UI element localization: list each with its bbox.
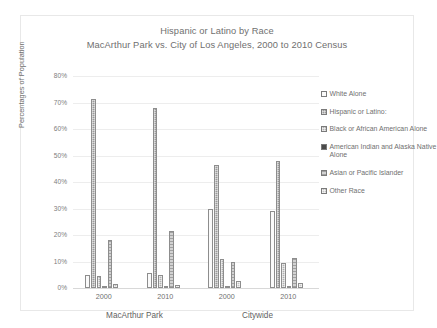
bar bbox=[292, 258, 297, 288]
legend-item-label: Black or African American Alone bbox=[330, 125, 428, 134]
legend-swatch-icon bbox=[321, 170, 327, 176]
chart-subtitle: MacArthur Park vs. City of Los Angeles, … bbox=[21, 39, 413, 53]
legend-item-label: American Indian and Alaska Native Alone bbox=[330, 143, 437, 160]
y-axis-tick-label: 10% bbox=[27, 258, 67, 265]
plot-area: 0%10%20%30%40%50%60%70%80% bbox=[73, 76, 319, 288]
bar bbox=[91, 99, 96, 288]
y-axis-label: Percentages of Population bbox=[17, 41, 26, 128]
x-axis-tick-label: 2010 bbox=[257, 292, 319, 301]
bar bbox=[108, 240, 113, 288]
legend-item-label: Asian or Pacific Islander bbox=[330, 169, 404, 178]
legend-item-label: Other Race bbox=[330, 187, 365, 196]
bar bbox=[236, 281, 241, 288]
legend-item[interactable]: Other Race bbox=[321, 187, 437, 196]
x-axis-group-label: Citywide bbox=[196, 311, 320, 320]
y-axis-tick-label: 20% bbox=[27, 231, 67, 238]
bar bbox=[169, 231, 174, 288]
bar bbox=[153, 108, 158, 288]
bar bbox=[270, 211, 275, 288]
bar bbox=[220, 259, 225, 288]
y-axis-tick-label: 40% bbox=[27, 178, 67, 185]
y-axis-tick-label: 50% bbox=[27, 152, 67, 159]
legend-item[interactable]: Hispanic or Latino: bbox=[321, 108, 437, 117]
x-axis-group-label: MacArthur Park bbox=[73, 311, 197, 320]
bar bbox=[214, 165, 219, 288]
chart-container: Hispanic or Latino by Race MacArthur Par… bbox=[20, 15, 414, 311]
legend-item-label: Hispanic or Latino: bbox=[330, 108, 387, 117]
legend-swatch-icon bbox=[321, 144, 327, 150]
bar bbox=[281, 263, 286, 288]
chart-title: Hispanic or Latino by Race bbox=[21, 25, 413, 39]
bar-series-group bbox=[73, 76, 319, 288]
chart-legend: White AloneHispanic or Latino:Black or A… bbox=[321, 90, 437, 204]
legend-item[interactable]: American Indian and Alaska Native Alone bbox=[321, 143, 437, 160]
legend-item[interactable]: Asian or Pacific Islander bbox=[321, 169, 437, 178]
legend-swatch-icon bbox=[321, 91, 327, 97]
y-axis-tick-label: 80% bbox=[27, 72, 67, 79]
y-axis-tick-label: 0% bbox=[27, 284, 67, 291]
bar bbox=[158, 275, 163, 288]
legend-swatch-icon bbox=[321, 188, 327, 194]
chart-title-block: Hispanic or Latino by Race MacArthur Par… bbox=[21, 25, 413, 52]
legend-item[interactable]: White Alone bbox=[321, 90, 437, 99]
bar bbox=[147, 273, 152, 288]
x-axis-tick-label: 2000 bbox=[196, 292, 258, 301]
y-axis-tick-label: 70% bbox=[27, 99, 67, 106]
x-axis-line bbox=[73, 288, 319, 289]
legend-item-label: White Alone bbox=[330, 90, 367, 99]
bar bbox=[97, 276, 102, 288]
y-axis-tick-label: 60% bbox=[27, 125, 67, 132]
x-axis-tick-label: 2000 bbox=[73, 292, 135, 301]
bar bbox=[231, 262, 236, 289]
legend-swatch-icon bbox=[321, 109, 327, 115]
bar bbox=[85, 275, 90, 288]
legend-item[interactable]: Black or African American Alone bbox=[321, 125, 437, 134]
legend-swatch-icon bbox=[321, 126, 327, 132]
x-axis-tick-label: 2010 bbox=[134, 292, 196, 301]
bar bbox=[276, 161, 281, 288]
bar bbox=[208, 209, 213, 288]
y-axis-tick-label: 30% bbox=[27, 205, 67, 212]
